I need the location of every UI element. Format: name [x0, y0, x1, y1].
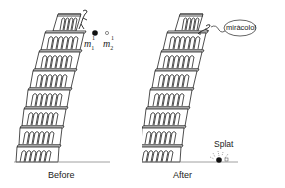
before-panel: m1 1 m2 1 Before: [0, 0, 142, 188]
splat-label: Splat: [214, 139, 233, 149]
leaning-tower-before: [0, 0, 142, 188]
speech-bubble-tail: [211, 26, 226, 32]
mass-m1-splatted: [216, 157, 222, 163]
leaning-tower-after: [142, 0, 285, 188]
mass-m2-hollow: [105, 31, 108, 34]
speech-bubble-text: miràcolo!: [226, 23, 256, 32]
after-panel: miràcolo! Splat After: [142, 0, 285, 188]
caption-before: Before: [48, 170, 75, 180]
mass-label-m1-superscript: 1: [92, 35, 95, 41]
mass-m2-landed: [225, 158, 228, 161]
mass-label-m2-superscript: 1: [111, 35, 114, 41]
caption-after: After: [173, 170, 192, 180]
